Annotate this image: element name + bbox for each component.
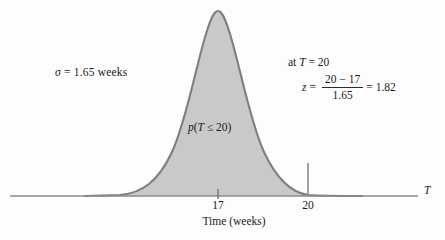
z-condition-prefix: at — [288, 56, 296, 68]
z-result-equals-sign: = — [366, 81, 373, 94]
sigma-symbol: σ — [55, 66, 61, 78]
x-axis-variable-name: T — [424, 184, 430, 196]
z-score-equation: z = 20 − 17 1.65 = 1.82 — [302, 73, 396, 102]
probability-variable: T — [198, 121, 204, 133]
tick-label-17: 17 — [212, 199, 224, 211]
z-condition-value: 20 — [318, 56, 330, 68]
z-score-annotation: at T = 20 z = 20 − 17 1.65 = 1.82 — [288, 56, 396, 103]
shaded-probability-area — [85, 11, 308, 196]
z-condition-line: at T = 20 — [288, 56, 396, 69]
probability-close-paren: ) — [228, 121, 232, 133]
z-symbol: z — [302, 81, 306, 94]
normal-distribution-figure: σ = 1.65 weeks p(T ≤ 20) at T = 20 z = 2… — [0, 0, 445, 240]
z-condition-variable: T — [299, 56, 305, 68]
sigma-value: 1.65 — [74, 66, 95, 78]
z-fraction-numerator: 20 − 17 — [322, 73, 363, 87]
z-fraction: 20 − 17 1.65 — [322, 73, 363, 102]
tick-label-20: 20 — [302, 199, 314, 211]
z-result-value: 1.82 — [376, 81, 396, 94]
z-equals-sign: = — [309, 81, 316, 94]
z-condition-equals: = — [308, 56, 315, 68]
sigma-units: weeks — [98, 66, 128, 78]
x-axis-title: Time (weeks) — [202, 215, 265, 227]
probability-operator: ≤ — [207, 121, 213, 133]
probability-bound: 20 — [216, 121, 228, 133]
z-fraction-denominator: 1.65 — [330, 88, 356, 102]
sigma-equals: = — [64, 66, 71, 78]
probability-annotation: p(T ≤ 20) — [188, 121, 231, 134]
sigma-annotation: σ = 1.65 weeks — [55, 66, 127, 79]
